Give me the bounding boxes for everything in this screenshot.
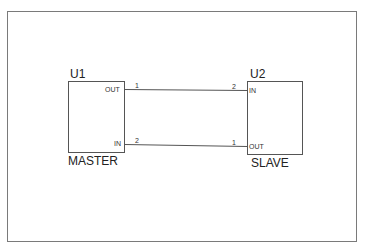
u1-pin-in-label: IN — [114, 140, 121, 147]
u2-pin-1-number: 1 — [232, 139, 236, 146]
u2-pin-2-number: 2 — [232, 83, 236, 90]
wire-u1out-u2in — [125, 90, 248, 91]
u1-pin-1-number: 1 — [135, 82, 139, 89]
u1-pin-out-label: OUT — [105, 86, 120, 93]
u2-pin-in-label: IN — [249, 87, 256, 94]
u1-pin-2-number: 2 — [135, 137, 139, 144]
u2-ref-label: U2 — [250, 68, 265, 80]
u2-name-label: SLAVE — [251, 157, 289, 169]
u2-pin-out-label: OUT — [249, 143, 264, 150]
schematic-graphics — [0, 0, 366, 250]
schematic-canvas: U1 MASTER OUT IN 1 2 U2 SLAVE IN OUT 2 1 — [0, 0, 366, 250]
wire-u2out-u1in — [125, 145, 248, 147]
u1-ref-label: U1 — [70, 68, 85, 80]
u1-name-label: MASTER — [68, 155, 118, 167]
